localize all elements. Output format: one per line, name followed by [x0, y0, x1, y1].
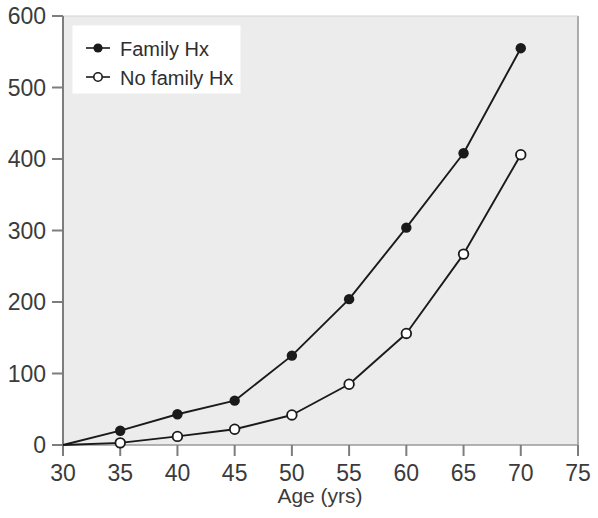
data-point-open [287, 410, 297, 420]
chart-canvas: 0100200300400500600 30354045505560657075… [0, 0, 598, 518]
x-tick-label: 45 [222, 460, 248, 486]
y-tick-label: 300 [8, 218, 46, 244]
y-axis-ticks: 0100200300400500600 [8, 3, 63, 458]
y-tick-label: 200 [8, 289, 46, 315]
data-point-open [173, 432, 183, 442]
data-point-open [402, 329, 412, 339]
data-point-open [344, 379, 354, 389]
x-tick-label: 40 [165, 460, 191, 486]
y-tick-label: 100 [8, 361, 46, 387]
y-tick-label: 500 [8, 75, 46, 101]
legend-label-no-family-hx: No family Hx [120, 67, 233, 89]
chart-legend: Family Hx No family Hx [73, 26, 240, 93]
x-tick-label: 65 [451, 460, 477, 486]
x-tick-label: 55 [336, 460, 362, 486]
x-tick-label: 50 [279, 460, 305, 486]
legend-label-family-hx: Family Hx [120, 38, 209, 60]
y-tick-label: 600 [8, 3, 46, 29]
y-tick-label: 400 [8, 146, 46, 172]
filled-circle-icon [93, 43, 102, 52]
open-circle-icon [94, 73, 102, 81]
data-point-filled [344, 294, 354, 304]
data-point-filled [172, 409, 182, 419]
data-point-filled [458, 148, 468, 158]
y-tick-label: 0 [33, 432, 46, 458]
data-point-filled [516, 43, 526, 53]
data-point-filled [401, 222, 411, 232]
data-point-filled [287, 350, 297, 360]
x-axis-title: Age (yrs) [277, 484, 362, 507]
data-point-open [459, 249, 469, 259]
chart-figure: 0100200300400500600 30354045505560657075… [0, 0, 598, 518]
data-point-open [230, 424, 240, 434]
data-point-open [516, 150, 526, 160]
x-tick-label: 60 [394, 460, 420, 486]
x-tick-label: 30 [50, 460, 76, 486]
x-tick-label: 70 [508, 460, 534, 486]
x-tick-label: 75 [565, 460, 591, 486]
data-point-open [115, 438, 125, 448]
data-point-filled [115, 426, 125, 436]
x-tick-label: 35 [107, 460, 133, 486]
data-point-filled [229, 395, 239, 405]
x-axis-ticks: 30354045505560657075 [50, 445, 591, 486]
